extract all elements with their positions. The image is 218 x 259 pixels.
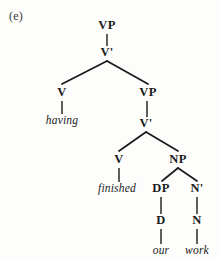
node-vp-2: VP xyxy=(139,85,156,99)
syntax-tree-diagram: VPV'VhavingVPV'VfinishedNPDPN'DNourwork xyxy=(0,0,218,259)
node-vp-top: VP xyxy=(98,18,115,32)
tree-node-labels: VPV'VhavingVPV'VfinishedNPDPN'DNourwork xyxy=(46,18,210,256)
node-d: D xyxy=(156,213,165,227)
node-np: NP xyxy=(169,152,186,166)
node-vbar-top: V' xyxy=(100,45,113,59)
node-nbar: N' xyxy=(190,181,203,195)
node-v-2: V xyxy=(114,152,123,166)
terminal-finished: finished xyxy=(98,182,136,195)
tree-branch-vbar-2-to-np xyxy=(146,132,178,151)
tree-branch-np-to-dp xyxy=(162,168,178,181)
tree-branch-vbar-top-to-vp-2 xyxy=(107,61,148,84)
terminal-our: our xyxy=(153,244,170,256)
tree-stems xyxy=(62,34,197,244)
terminal-work: work xyxy=(185,244,209,256)
terminal-having: having xyxy=(46,114,79,127)
figure-canvas: (e) VPV'VhavingVPV'VfinishedNPDPN'DNourw… xyxy=(0,0,218,259)
tree-branch-np-to-nbar xyxy=(178,168,197,181)
node-n: N xyxy=(192,213,201,227)
node-vbar-2: V' xyxy=(139,116,152,130)
tree-branch-vbar-top-to-v-1 xyxy=(62,61,107,84)
node-dp: DP xyxy=(152,181,169,195)
tree-branch-vbar-2-to-v-2 xyxy=(119,132,146,151)
node-v-1: V xyxy=(57,85,66,99)
